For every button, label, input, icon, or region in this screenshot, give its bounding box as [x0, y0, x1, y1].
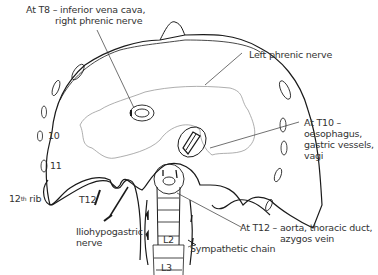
label-t8-line1: At T8 – inferior vena cava, — [26, 4, 145, 15]
label-t10-line2: oesophagus, — [304, 128, 374, 139]
label-left-phrenic: Left phrenic nerve — [249, 49, 332, 60]
label-sympathetic-chain: Sympathetic chain — [190, 243, 275, 254]
label-t8: At T8 – inferior vena cava, right phreni… — [26, 4, 145, 26]
label-t10-line1: At T10 – — [304, 117, 374, 128]
label-t12-line1: At T12 – aorta, thoracic duct, — [240, 222, 372, 233]
label-t12: At T12 – aorta, thoracic duct, azygos ve… — [240, 222, 372, 244]
label-ilio-line2: nerve — [76, 237, 143, 248]
label-t8-line2: right phrenic nerve — [26, 15, 145, 26]
central-tendon — [80, 86, 255, 158]
label-rib-11: 11 — [50, 160, 62, 171]
label-ilio-line1: Iliohypogastric — [76, 226, 143, 237]
label-rib-12: 12th rib — [9, 193, 41, 204]
label-t10: At T10 – oesophagus, gastric vessels, va… — [304, 117, 374, 161]
label-iliohypogastric: Iliohypogastric nerve — [76, 226, 143, 248]
oesophageal-opening — [172, 121, 212, 162]
rib12-number: 12 — [9, 193, 21, 204]
label-t10-line3: gastric vessels, — [304, 139, 374, 150]
label-t10-line4: vagi — [304, 150, 374, 161]
rib12-word: rib — [26, 193, 41, 204]
label-rib-10: 10 — [48, 130, 60, 141]
label-l2: L2 — [163, 234, 174, 245]
inner-rim — [60, 40, 260, 100]
label-l3: L3 — [161, 262, 172, 273]
label-t12-spine: T12 — [79, 194, 96, 205]
